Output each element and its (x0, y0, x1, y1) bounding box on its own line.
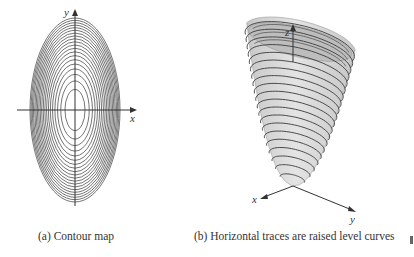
caption-contour-map: (a) Contour map (38, 230, 114, 242)
y3d-arrow-icon (348, 206, 356, 212)
z-axis-label: z (284, 26, 290, 38)
x-axis-label: x (129, 112, 135, 124)
caption-raised-level-curves: (b) Horizontal traces are raised level c… (194, 230, 395, 242)
paraboloid (245, 15, 355, 186)
page-edge-marker (410, 236, 413, 244)
x3d-axis-label: x (251, 193, 257, 205)
y3d-axis-label: y (349, 213, 355, 225)
x3d-arrow-icon (260, 194, 268, 199)
y-arrow-icon (72, 9, 78, 16)
figure-canvas: x y z x y (0, 0, 414, 257)
y-axis-label: y (63, 6, 69, 18)
